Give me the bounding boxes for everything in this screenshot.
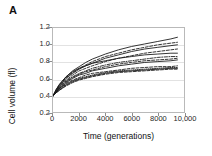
x-tick-mark — [52, 113, 53, 116]
x-tick-mark — [158, 113, 159, 116]
x-tick-label: 8000 — [150, 115, 167, 123]
x-tick-label: 0 — [50, 115, 54, 123]
x-tick-label: 6000 — [123, 115, 140, 123]
x-tick-mark — [185, 113, 186, 116]
x-axis-label: Time (generations) — [52, 131, 185, 141]
x-tick-label: 4000 — [97, 115, 114, 123]
x-tick-mark — [132, 113, 133, 116]
figure-panel-a: A Cell volume (fl) 0.20.40.60.81.01.2 02… — [0, 0, 212, 156]
x-tick-mark — [79, 113, 80, 116]
x-tick-label: 2000 — [70, 115, 87, 123]
x-tick-mark — [105, 113, 106, 116]
x-tick-label: 10,000 — [174, 115, 197, 123]
